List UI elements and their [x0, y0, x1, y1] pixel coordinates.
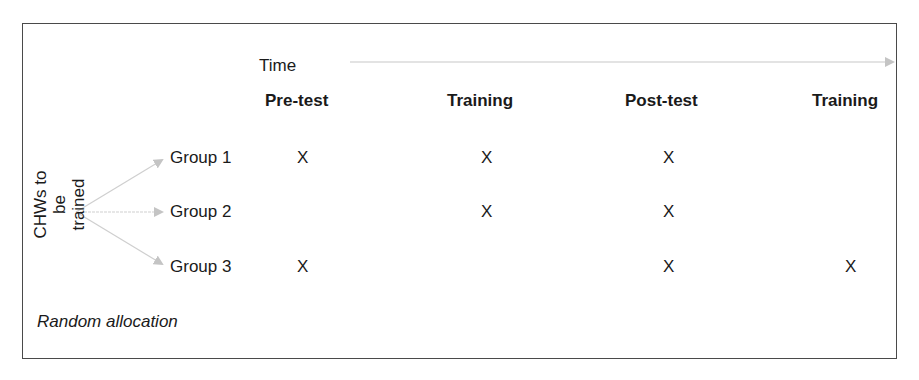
time-label: Time [259, 56, 296, 76]
random-allocation-note: Random allocation [37, 312, 178, 332]
phase-header-pretest: Pre-test [265, 91, 328, 111]
source-label-line2: trained [69, 170, 88, 240]
allocation-arrow-group-1 [76, 160, 162, 212]
source-label-line1: CHWs to be [31, 170, 69, 240]
phase-header-posttest: Post-test [625, 91, 698, 111]
phase-header-training-1: Training [447, 91, 513, 111]
source-population-label: CHWs to be trained [31, 170, 88, 240]
mark-g2-posttest: X [663, 202, 674, 222]
group-2-label: Group 2 [170, 202, 231, 222]
mark-g1-pretest: X [297, 148, 308, 168]
mark-g2-training-1: X [481, 202, 492, 222]
group-3-label: Group 3 [170, 257, 231, 277]
mark-g3-pretest: X [297, 257, 308, 277]
mark-g1-posttest: X [663, 148, 674, 168]
mark-g3-training-2: X [845, 257, 856, 277]
phase-header-training-2: Training [812, 91, 878, 111]
mark-g3-posttest: X [663, 257, 674, 277]
mark-g1-training-1: X [481, 148, 492, 168]
group-1-label: Group 1 [170, 148, 231, 168]
allocation-arrow-group-3 [76, 212, 162, 264]
